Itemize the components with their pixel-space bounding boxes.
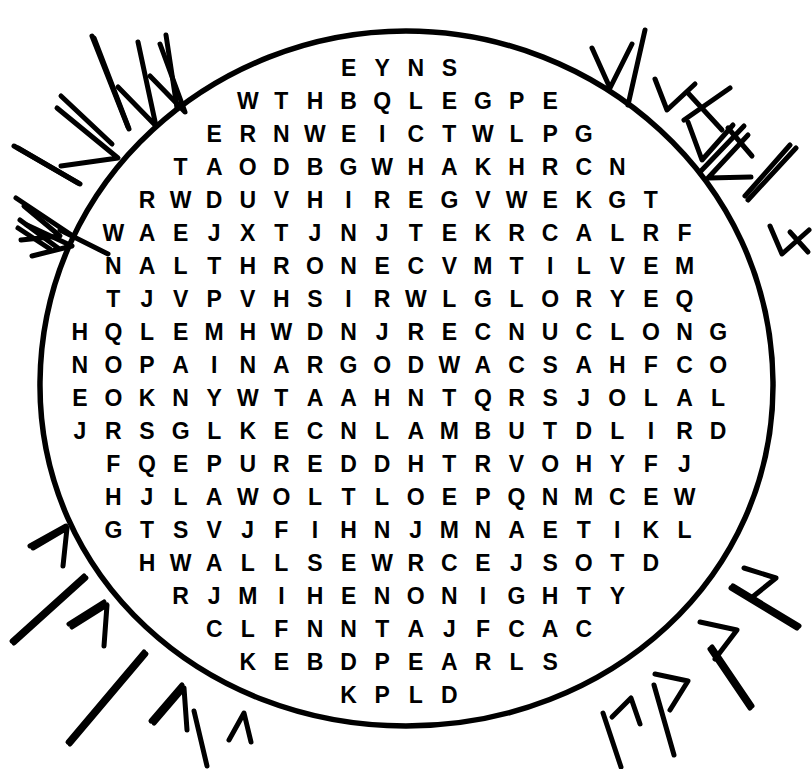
grid-letter[interactable]: D: [634, 547, 668, 580]
grid-letter[interactable]: W: [466, 118, 500, 151]
grid-letter[interactable]: R: [466, 448, 500, 481]
grid-letter[interactable]: A: [567, 217, 601, 250]
grid-letter[interactable]: E: [332, 580, 366, 613]
grid-letter[interactable]: W: [298, 118, 332, 151]
grid-letter[interactable]: H: [298, 85, 332, 118]
grid-letter[interactable]: F: [634, 349, 668, 382]
grid-letter[interactable]: L: [231, 547, 265, 580]
grid-letter[interactable]: F: [668, 217, 702, 250]
grid-letter[interactable]: P: [130, 349, 164, 382]
grid-letter[interactable]: N: [332, 250, 366, 283]
grid-letter[interactable]: L: [231, 613, 265, 646]
grid-letter[interactable]: L: [601, 415, 635, 448]
grid-letter[interactable]: N: [533, 481, 567, 514]
grid-letter[interactable]: J: [399, 514, 433, 547]
grid-letter[interactable]: Q: [365, 85, 399, 118]
grid-letter[interactable]: O: [567, 547, 601, 580]
grid-letter[interactable]: T: [197, 250, 231, 283]
grid-letter[interactable]: C: [567, 316, 601, 349]
grid-letter[interactable]: J: [231, 514, 265, 547]
grid-letter[interactable]: D: [298, 316, 332, 349]
grid-letter[interactable]: J: [130, 283, 164, 316]
grid-letter[interactable]: R: [265, 448, 299, 481]
grid-letter[interactable]: O: [533, 283, 567, 316]
grid-letter[interactable]: Q: [466, 382, 500, 415]
grid-letter[interactable]: L: [298, 481, 332, 514]
grid-letter[interactable]: T: [433, 118, 467, 151]
grid-letter[interactable]: G: [433, 184, 467, 217]
grid-letter[interactable]: O: [399, 481, 433, 514]
grid-letter[interactable]: H: [601, 349, 635, 382]
grid-letter[interactable]: N: [433, 580, 467, 613]
grid-letter[interactable]: N: [231, 349, 265, 382]
grid-letter[interactable]: E: [533, 514, 567, 547]
grid-letter[interactable]: H: [399, 151, 433, 184]
grid-letter[interactable]: P: [365, 646, 399, 679]
grid-letter[interactable]: R: [298, 349, 332, 382]
grid-letter[interactable]: N: [399, 382, 433, 415]
grid-letter[interactable]: I: [466, 580, 500, 613]
grid-letter[interactable]: L: [399, 85, 433, 118]
grid-letter[interactable]: O: [533, 448, 567, 481]
grid-letter[interactable]: E: [634, 283, 668, 316]
grid-letter[interactable]: K: [634, 514, 668, 547]
grid-letter[interactable]: H: [298, 184, 332, 217]
grid-letter[interactable]: M: [433, 514, 467, 547]
grid-letter[interactable]: C: [567, 151, 601, 184]
grid-letter[interactable]: B: [298, 646, 332, 679]
grid-letter[interactable]: L: [365, 415, 399, 448]
grid-letter[interactable]: T: [533, 415, 567, 448]
grid-letter[interactable]: N: [298, 613, 332, 646]
grid-letter[interactable]: E: [332, 118, 366, 151]
grid-letter[interactable]: T: [97, 283, 131, 316]
grid-letter[interactable]: H: [265, 283, 299, 316]
grid-letter[interactable]: E: [197, 118, 231, 151]
grid-letter[interactable]: W: [164, 184, 198, 217]
grid-letter[interactable]: O: [97, 382, 131, 415]
grid-letter[interactable]: A: [668, 382, 702, 415]
grid-letter[interactable]: M: [567, 481, 601, 514]
grid-letter[interactable]: O: [365, 349, 399, 382]
grid-letter[interactable]: I: [601, 514, 635, 547]
grid-letter[interactable]: G: [567, 118, 601, 151]
grid-letter[interactable]: I: [634, 415, 668, 448]
grid-letter[interactable]: E: [466, 547, 500, 580]
grid-letter[interactable]: H: [567, 448, 601, 481]
grid-letter[interactable]: X: [231, 217, 265, 250]
grid-letter[interactable]: U: [500, 415, 534, 448]
grid-letter[interactable]: L: [567, 250, 601, 283]
grid-letter[interactable]: D: [433, 679, 467, 712]
grid-letter[interactable]: U: [231, 448, 265, 481]
grid-letter[interactable]: G: [332, 151, 366, 184]
grid-letter[interactable]: W: [365, 547, 399, 580]
grid-letter[interactable]: G: [601, 184, 635, 217]
grid-letter[interactable]: C: [399, 118, 433, 151]
grid-letter[interactable]: L: [130, 316, 164, 349]
grid-letter[interactable]: O: [399, 580, 433, 613]
grid-letter[interactable]: A: [399, 415, 433, 448]
grid-letter[interactable]: J: [298, 217, 332, 250]
grid-letter[interactable]: T: [500, 250, 534, 283]
grid-letter[interactable]: Q: [668, 283, 702, 316]
grid-letter[interactable]: T: [265, 85, 299, 118]
grid-letter[interactable]: R: [399, 316, 433, 349]
grid-letter[interactable]: L: [634, 382, 668, 415]
grid-letter[interactable]: C: [668, 349, 702, 382]
grid-letter[interactable]: R: [500, 217, 534, 250]
grid-letter[interactable]: G: [332, 349, 366, 382]
grid-letter[interactable]: B: [298, 151, 332, 184]
grid-letter[interactable]: N: [63, 349, 97, 382]
grid-letter[interactable]: G: [466, 283, 500, 316]
grid-letter[interactable]: K: [231, 415, 265, 448]
grid-letter[interactable]: T: [164, 151, 198, 184]
grid-letter[interactable]: R: [668, 415, 702, 448]
grid-letter[interactable]: C: [466, 316, 500, 349]
grid-letter[interactable]: T: [433, 448, 467, 481]
grid-letter[interactable]: T: [265, 217, 299, 250]
grid-letter[interactable]: W: [97, 217, 131, 250]
grid-letter[interactable]: E: [164, 448, 198, 481]
grid-letter[interactable]: A: [197, 481, 231, 514]
grid-letter[interactable]: E: [164, 217, 198, 250]
grid-letter[interactable]: J: [668, 448, 702, 481]
grid-letter[interactable]: E: [634, 250, 668, 283]
